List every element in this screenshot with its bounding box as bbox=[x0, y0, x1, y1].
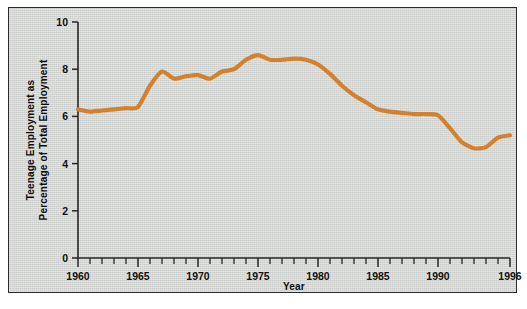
x-tick-label: 1990 bbox=[426, 270, 450, 282]
y-axis: 0246810 bbox=[56, 16, 78, 264]
x-tick-label: 1970 bbox=[186, 270, 210, 282]
x-tick-label: 1960 bbox=[66, 270, 90, 282]
chart-figure: 0246810 19601965197019751980198519901996… bbox=[0, 0, 527, 309]
x-tick-label: 1980 bbox=[306, 270, 330, 282]
y-tick-label: 8 bbox=[62, 63, 68, 75]
y-axis-title: Teenage Employment as Percentage of Tota… bbox=[25, 59, 49, 220]
line-chart: 0246810 19601965197019751980198519901996… bbox=[0, 0, 527, 309]
y-tick-label: 10 bbox=[56, 16, 68, 28]
y-tick-label: 6 bbox=[62, 110, 68, 122]
x-tick-label: 1975 bbox=[246, 270, 270, 282]
teenage-employment-line bbox=[78, 55, 510, 148]
x-axis: 19601965197019751980198519901996 bbox=[66, 258, 522, 282]
y-tick-label: 0 bbox=[62, 252, 68, 264]
chart-canvas: 0246810 19601965197019751980198519901996… bbox=[0, 0, 527, 309]
x-tick-label: 1985 bbox=[366, 270, 390, 282]
y-tick-label: 4 bbox=[62, 158, 68, 170]
x-tick-label: 1996 bbox=[498, 270, 522, 282]
x-tick-label: 1965 bbox=[126, 270, 150, 282]
y-axis-title-line2: Percentage of Total Employment bbox=[38, 59, 49, 220]
y-tick-label: 2 bbox=[62, 205, 68, 217]
y-axis-title-line1: Teenage Employment as bbox=[25, 79, 36, 200]
x-axis-title: Year bbox=[283, 281, 305, 292]
